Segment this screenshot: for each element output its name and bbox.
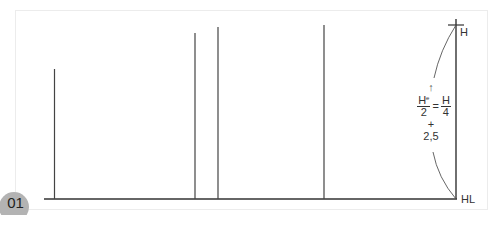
label-hl: HL [461, 194, 475, 205]
rhs-denominator: 4 [442, 107, 450, 118]
formula-constant: 2,5 [403, 131, 459, 142]
height-formula: ↑ He 2 = H 4 + 2,5 [409, 82, 459, 142]
fraction-rhs: H 4 [441, 95, 451, 118]
fraction-lhs: He 2 [417, 95, 430, 118]
plus-sign: + [403, 119, 459, 130]
dimension-arc-lower [433, 152, 456, 199]
formula-equation: He 2 = H 4 [409, 95, 459, 118]
figure-number-badge: 01 [0, 192, 29, 215]
lhs-denominator: 2 [420, 107, 428, 118]
figure-number: 01 [7, 194, 24, 211]
equals-sign: = [431, 101, 439, 112]
dimension-arc-upper [434, 25, 456, 78]
label-h: H [460, 27, 468, 38]
arrow-up-icon: ↑ [403, 82, 459, 93]
